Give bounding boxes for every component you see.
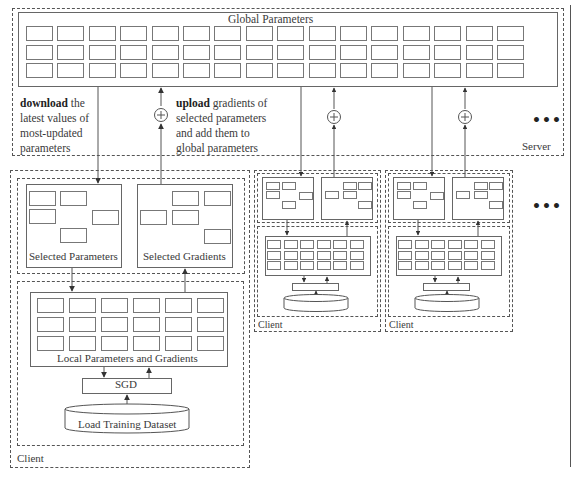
global-parameter-cell bbox=[277, 45, 304, 60]
global-parameter-cell bbox=[152, 26, 179, 41]
selected-gradient-cell bbox=[358, 201, 372, 209]
upload-note-line-0: gradients of bbox=[213, 97, 268, 109]
download-note-bold: download bbox=[20, 97, 68, 109]
global-parameter-cell bbox=[309, 26, 336, 41]
global-parameter-cell bbox=[246, 63, 273, 78]
local-parameter-cell bbox=[398, 251, 412, 260]
client-2-sgd-box[interactable] bbox=[292, 283, 339, 291]
selected-parameter-cell bbox=[92, 210, 119, 225]
client-1-sgd-label: SGD bbox=[115, 378, 137, 390]
global-parameter-cell bbox=[434, 63, 461, 78]
local-parameter-cell bbox=[350, 251, 364, 260]
global-parameter-cell bbox=[152, 63, 179, 78]
selected-parameter-cell bbox=[282, 201, 296, 209]
client-1-label: Client bbox=[17, 452, 44, 464]
local-parameter-cell bbox=[69, 298, 96, 313]
global-parameter-cell bbox=[89, 63, 116, 78]
local-parameter-cell bbox=[333, 261, 347, 270]
global-parameter-cell bbox=[434, 26, 461, 41]
selected-parameter-cell bbox=[60, 228, 87, 243]
selected-gradient-cell bbox=[358, 182, 372, 190]
global-parameter-cell bbox=[371, 63, 398, 78]
global-parameter-cell bbox=[57, 63, 84, 78]
client-1-local-parameters-label: Local Parameters and Gradients bbox=[57, 352, 198, 364]
global-parameter-cell bbox=[26, 26, 53, 41]
local-parameter-cell bbox=[37, 298, 64, 313]
download-note-line-1: latest values of bbox=[20, 112, 89, 124]
global-parameter-cell bbox=[434, 45, 461, 60]
local-parameter-cell bbox=[464, 251, 478, 260]
global-parameter-cell bbox=[497, 63, 524, 78]
local-parameter-cell bbox=[133, 298, 160, 313]
local-parameter-cell bbox=[481, 261, 495, 270]
local-parameter-cell bbox=[101, 336, 128, 351]
global-parameter-cell bbox=[246, 45, 273, 60]
upload-note-line-1: selected parameters bbox=[176, 112, 266, 124]
selected-parameter-cell bbox=[29, 209, 56, 224]
local-parameter-cell bbox=[284, 251, 298, 260]
local-parameter-cell bbox=[197, 298, 224, 313]
global-parameter-cell bbox=[89, 45, 116, 60]
global-parameter-cell bbox=[57, 26, 84, 41]
local-parameter-cell bbox=[448, 251, 462, 260]
selected-gradient-cell bbox=[325, 191, 339, 199]
local-parameter-cell bbox=[481, 251, 495, 260]
global-parameter-cell bbox=[371, 45, 398, 60]
local-parameter-cell bbox=[165, 336, 192, 351]
download-note-line-2: most-updated bbox=[20, 127, 83, 139]
selected-parameter-cell bbox=[282, 182, 296, 190]
global-parameter-cell bbox=[183, 63, 210, 78]
local-parameter-cell bbox=[317, 251, 331, 260]
global-parameter-cell bbox=[466, 26, 493, 41]
local-parameter-cell bbox=[284, 261, 298, 270]
selected-gradient-cell bbox=[343, 191, 357, 199]
local-parameter-cell bbox=[448, 240, 462, 249]
local-parameter-cell bbox=[101, 298, 128, 313]
more-clients-ellipsis: ••• bbox=[532, 198, 562, 214]
selected-parameter-cell bbox=[29, 191, 56, 206]
selected-parameter-cell bbox=[413, 182, 427, 190]
local-parameter-cell bbox=[398, 261, 412, 270]
global-parameter-cell bbox=[340, 45, 367, 60]
selected-parameter-cell bbox=[266, 182, 280, 190]
local-parameter-cell bbox=[448, 261, 462, 270]
local-parameter-cell bbox=[300, 251, 314, 260]
global-parameter-cell bbox=[214, 26, 241, 41]
global-parameter-cell bbox=[89, 26, 116, 41]
global-parameter-cell bbox=[497, 45, 524, 60]
local-parameter-cell bbox=[197, 317, 224, 332]
selected-parameter-cell bbox=[266, 191, 280, 199]
global-parameter-cell bbox=[309, 45, 336, 60]
local-parameter-cell bbox=[267, 251, 281, 260]
global-parameter-cell bbox=[183, 26, 210, 41]
global-parameter-cell bbox=[246, 26, 273, 41]
local-parameter-cell bbox=[37, 336, 64, 351]
server-ellipsis: ••• bbox=[532, 112, 562, 128]
global-parameter-cell bbox=[152, 45, 179, 60]
local-parameter-cell bbox=[398, 240, 412, 249]
client-3-sgd-box[interactable] bbox=[423, 283, 470, 291]
local-parameter-cell bbox=[37, 317, 64, 332]
selected-parameter-cell bbox=[397, 191, 411, 199]
selected-gradient-cell bbox=[474, 191, 488, 199]
global-parameter-cell bbox=[26, 63, 53, 78]
global-parameter-cell bbox=[403, 63, 430, 78]
upload-note-line-3: global parameters bbox=[176, 142, 258, 154]
selected-parameter-cell bbox=[299, 192, 313, 200]
selected-parameter-cell bbox=[397, 182, 411, 190]
local-parameter-cell bbox=[101, 317, 128, 332]
local-parameter-cell bbox=[300, 240, 314, 249]
local-parameter-cell bbox=[333, 251, 347, 260]
selected-gradient-cell bbox=[140, 210, 167, 225]
local-parameter-cell bbox=[317, 240, 331, 249]
local-parameter-cell bbox=[333, 240, 347, 249]
client-3-label: Client bbox=[389, 319, 413, 330]
client-1-selected-parameters-label: Selected Parameters bbox=[29, 250, 118, 262]
global-parameter-cell bbox=[214, 45, 241, 60]
local-parameter-cell bbox=[464, 240, 478, 249]
global-parameter-cell bbox=[403, 45, 430, 60]
upload-note-line-2: and add them to bbox=[176, 127, 250, 139]
selected-gradient-cell bbox=[456, 191, 470, 199]
global-parameter-cell bbox=[371, 26, 398, 41]
local-parameter-cell bbox=[284, 240, 298, 249]
